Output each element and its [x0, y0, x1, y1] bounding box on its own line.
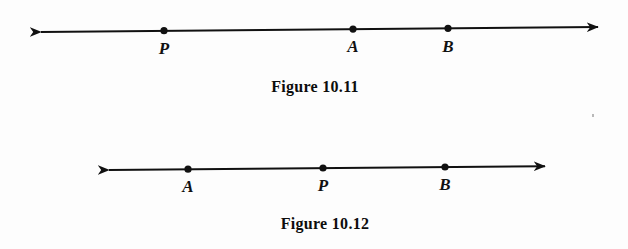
point-dot-p-2: [319, 164, 326, 171]
figure-page: P A B Figure 10.11 A P B Figure 10.12: [0, 0, 628, 249]
point-label-b-2: B: [430, 176, 460, 193]
point-label-p-2: P: [308, 177, 338, 194]
point-dot-b-1: [444, 25, 451, 32]
figure-caption-1: Figure 10.11: [165, 79, 465, 95]
point-label-a-2: A: [173, 178, 203, 195]
point-label-b-1: B: [433, 38, 463, 55]
figure-caption-2: Figure 10.12: [175, 216, 475, 232]
point-dot-a-1: [349, 26, 356, 33]
line-segment-1: [41, 27, 598, 32]
scan-speck-artifact: [592, 114, 594, 117]
figure-10-11: P A B Figure 10.11: [0, 0, 628, 125]
point-label-a-1: A: [338, 38, 368, 55]
point-label-p-1: P: [149, 40, 179, 57]
point-dot-a-2: [184, 166, 191, 173]
point-dot-p-1: [160, 27, 167, 34]
line-segment-2: [109, 166, 545, 170]
number-line-1: [0, 0, 628, 80]
figure-10-12: A P B Figure 10.12: [0, 125, 628, 249]
point-dot-b-2: [441, 163, 448, 170]
